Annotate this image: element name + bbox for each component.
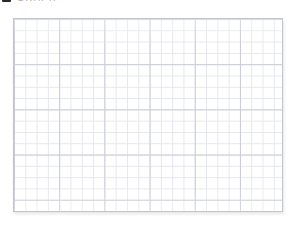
- page-title: GRAPH: [17, 0, 57, 3]
- graph-paper-canvas[interactable]: [13, 18, 283, 212]
- app-square-icon[interactable]: [2, 0, 11, 2]
- header-row: GRAPH: [0, 0, 57, 5]
- grid-vignette-overlay: [14, 19, 282, 211]
- header-bar: GRAPH: [0, 0, 296, 12]
